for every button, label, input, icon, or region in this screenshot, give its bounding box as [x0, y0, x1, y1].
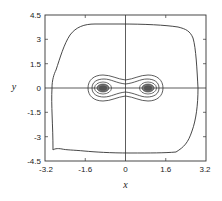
- x-tick-labels: -3.2 -1.6 0 1.6 3.2: [39, 165, 211, 174]
- svg-text:1.5: 1.5: [30, 60, 42, 69]
- svg-text:0: 0: [37, 84, 42, 93]
- contour-chart: 4.5 3 1.5 0 -1.5 -3 -4.5 -3.2 -1.6 0 1.6…: [0, 0, 222, 201]
- x-axis-label: x: [122, 179, 128, 190]
- svg-text:3.2: 3.2: [199, 165, 211, 174]
- svg-text:-3: -3: [34, 133, 42, 142]
- svg-text:4.5: 4.5: [30, 11, 42, 20]
- svg-text:1.6: 1.6: [160, 165, 172, 174]
- right-well: [140, 82, 157, 94]
- svg-text:-3.2: -3.2: [39, 165, 53, 174]
- svg-text:-1.5: -1.5: [27, 108, 41, 117]
- svg-text:-1.6: -1.6: [78, 165, 92, 174]
- y-axis-label: y: [11, 81, 17, 92]
- outer-contour: [52, 24, 198, 153]
- y-tick-labels: 4.5 3 1.5 0 -1.5 -3 -4.5: [27, 11, 41, 166]
- left-well: [95, 82, 112, 94]
- svg-text:3: 3: [37, 35, 42, 44]
- svg-text:0: 0: [123, 165, 128, 174]
